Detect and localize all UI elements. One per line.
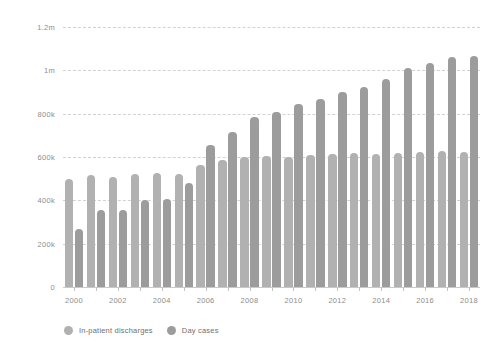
bar-day-cases: [228, 132, 236, 287]
bar-day-cases: [382, 79, 390, 287]
bar-group: [65, 27, 83, 287]
bar-group: [153, 27, 171, 287]
bar-chart: 0200k400k600k800k1m1.2m 2000200220042006…: [0, 0, 501, 357]
x-axis-tick: [403, 287, 404, 291]
x-axis-tick: [381, 287, 382, 291]
bar-group: [218, 27, 236, 287]
x-axis-tick: [206, 287, 207, 291]
y-axis-tick-label: 200k: [11, 239, 55, 248]
x-axis-tick-label: 2006: [197, 296, 215, 305]
bar-day-cases: [163, 199, 171, 287]
bar-in-patient-discharges: [306, 155, 314, 287]
legend-label: In-patient discharges: [79, 326, 153, 335]
legend-label: Day cases: [182, 326, 219, 335]
bar-day-cases: [250, 117, 258, 287]
x-axis-tick-label: 2016: [416, 296, 434, 305]
bar-series-container: [63, 27, 480, 287]
y-axis-tick-label: 600k: [11, 153, 55, 162]
bar-in-patient-discharges: [460, 152, 468, 287]
bar-day-cases: [272, 112, 280, 288]
bar-in-patient-discharges: [109, 177, 117, 288]
x-axis-tick: [272, 287, 273, 291]
bar-group: [131, 27, 149, 287]
bar-day-cases: [470, 56, 478, 287]
x-axis-tick: [315, 287, 316, 291]
x-axis-tick-label: 2004: [153, 296, 171, 305]
bar-in-patient-discharges: [240, 157, 248, 287]
y-axis-tick-label: 800k: [11, 109, 55, 118]
chart-legend: In-patient dischargesDay cases: [64, 326, 219, 335]
x-axis-tick: [359, 287, 360, 291]
bar-day-cases: [119, 210, 127, 287]
bar-group: [372, 27, 390, 287]
bar-in-patient-discharges: [87, 175, 95, 287]
bar-in-patient-discharges: [262, 156, 270, 287]
bar-in-patient-discharges: [284, 157, 292, 287]
x-axis-tick: [447, 287, 448, 291]
bar-day-cases: [206, 145, 214, 287]
bar-in-patient-discharges: [394, 153, 402, 287]
bar-day-cases: [185, 183, 193, 287]
x-axis-tick: [250, 287, 251, 291]
x-axis-tick-label: 2012: [328, 296, 346, 305]
bar-day-cases: [75, 229, 83, 288]
x-axis-tick: [184, 287, 185, 291]
plot-area: [63, 27, 480, 287]
x-axis-tick: [96, 287, 97, 291]
bar-day-cases: [141, 200, 149, 287]
bar-group: [109, 27, 127, 287]
bar-day-cases: [426, 63, 434, 287]
bar-in-patient-discharges: [372, 154, 380, 287]
bar-in-patient-discharges: [153, 173, 161, 287]
bar-group: [350, 27, 368, 287]
bar-in-patient-discharges: [350, 153, 358, 287]
bar-day-cases: [316, 99, 324, 288]
x-axis-tick-label: 2014: [372, 296, 390, 305]
bar-day-cases: [294, 104, 302, 287]
x-axis-tick: [140, 287, 141, 291]
x-axis-tick: [74, 287, 75, 291]
bar-day-cases: [338, 92, 346, 287]
legend-item[interactable]: In-patient discharges: [64, 326, 153, 335]
x-axis-tick-label: 2018: [460, 296, 478, 305]
y-axis-tick-label: 400k: [11, 196, 55, 205]
y-axis-tick-label: 1.2m: [11, 23, 55, 32]
bar-in-patient-discharges: [65, 179, 73, 287]
bar-in-patient-discharges: [131, 174, 139, 287]
bar-group: [328, 27, 346, 287]
x-axis-tick: [337, 287, 338, 291]
x-axis-tick: [425, 287, 426, 291]
bar-in-patient-discharges: [416, 152, 424, 287]
x-axis-tick: [293, 287, 294, 291]
legend-swatch-icon: [64, 326, 73, 335]
bar-in-patient-discharges: [438, 151, 446, 288]
bar-group: [394, 27, 412, 287]
bar-group: [416, 27, 434, 287]
x-axis-tick-label: 2000: [65, 296, 83, 305]
x-axis-tick: [228, 287, 229, 291]
bar-day-cases: [97, 210, 105, 287]
x-axis-tick: [469, 287, 470, 291]
bar-group: [262, 27, 280, 287]
bar-day-cases: [404, 68, 412, 287]
legend-swatch-icon: [167, 326, 176, 335]
bar-in-patient-discharges: [328, 154, 336, 287]
bar-group: [240, 27, 258, 287]
bar-group: [438, 27, 456, 287]
bar-group: [460, 27, 478, 287]
y-axis-tick-label: 0: [11, 283, 55, 292]
bar-day-cases: [360, 87, 368, 287]
bar-group: [284, 27, 302, 287]
bar-in-patient-discharges: [175, 174, 183, 287]
legend-item[interactable]: Day cases: [167, 326, 219, 335]
x-axis-tick: [118, 287, 119, 291]
bar-day-cases: [448, 57, 456, 287]
x-axis-tick-label: 2002: [109, 296, 127, 305]
bar-in-patient-discharges: [196, 165, 204, 287]
bar-in-patient-discharges: [218, 160, 226, 287]
bar-group: [306, 27, 324, 287]
y-axis-tick-label: 1m: [11, 66, 55, 75]
bar-group: [175, 27, 193, 287]
x-axis-tick: [162, 287, 163, 291]
x-axis-tick-label: 2008: [241, 296, 259, 305]
